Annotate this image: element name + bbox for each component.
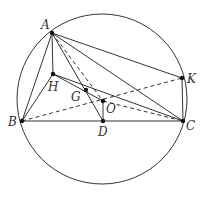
segment-KC (182, 78, 183, 121)
label-C: C (186, 119, 195, 133)
label-D: D (97, 125, 108, 139)
segment-AB (22, 33, 52, 121)
point-D (101, 119, 105, 123)
label-O: O (106, 102, 116, 116)
point-G (84, 88, 88, 92)
solid-segments (22, 33, 183, 121)
segment-AD (52, 33, 103, 121)
label-G: G (71, 90, 81, 104)
segment-AH (52, 33, 53, 74)
point-B (20, 119, 24, 123)
circumcircle (17, 14, 187, 184)
point-C (181, 119, 185, 123)
label-B: B (7, 115, 17, 129)
label-K: K (186, 72, 197, 86)
label-A: A (40, 18, 50, 32)
label-H: H (47, 80, 59, 94)
geometry-diagram: AHBCKDOG (0, 0, 206, 202)
point-A (50, 31, 54, 35)
point-H (51, 72, 55, 76)
point-K (180, 76, 184, 80)
point-O (101, 99, 105, 103)
